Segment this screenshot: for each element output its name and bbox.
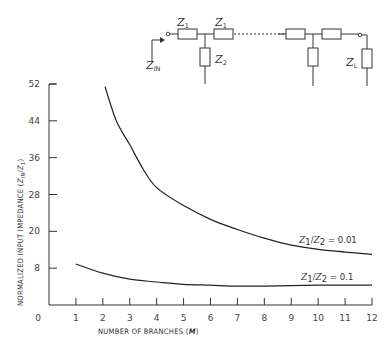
z2-resistor [200,48,210,66]
chart-axes: 0123456789101112 82028364452 NUMBER OF B… [16,79,378,336]
zl-label: ZL [345,56,358,70]
x-tick-label: 10 [312,313,324,323]
ladder-circuit-diagram: ZIN Z1 Z1 Z2 ZL [145,16,372,86]
x-tick-label: 4 [154,313,160,323]
x-tick-label: 9 [288,313,294,323]
y-tick-label: 20 [29,226,41,236]
y-axis-ticks: 82028364452 [29,79,57,273]
zin-arrow-head-icon [160,37,165,43]
annotation-series-0.1: Z1/Z2 = 0.1 [300,272,353,284]
x-tick-label: 5 [181,313,187,323]
x-tick-label: 2 [100,313,106,323]
x-tick-label: 3 [127,313,133,323]
series-line-z1-z2-0.01 [105,87,372,255]
y-tick-label: 36 [29,153,41,163]
x-axis-title: NUMBER OF BRANCHES (M) [98,327,199,336]
z2-label: Z2 [214,53,227,67]
y-tick-label: 44 [29,116,41,126]
series-layer [76,87,372,286]
z1-resistor-2 [214,29,233,39]
z1-resistor-4 [322,29,341,39]
annotation-series-0.01: Z1/Z2 = 0.01 [298,235,357,247]
input-terminal-icon [166,32,170,36]
z1-label-2: Z1 [214,16,227,30]
x-tick-label: 6 [208,313,214,323]
x-tick-label: 11 [339,313,350,323]
x-axis-ticks: 0123456789101112 [35,298,378,323]
x-tick-label: 1 [73,313,79,323]
y-tick-label: 52 [29,79,40,89]
z2-resistor-last [308,48,318,66]
figure: ZIN Z1 Z1 Z2 ZL 0123456789101112 8202836… [0,0,391,349]
x-tick-label: 0 [35,313,41,323]
z1-resistor-3 [286,29,305,39]
y-axis-title: NORMALIZED INPUT IMPEDANCE (ZIN/Z1) [16,159,26,306]
x-tick-label: 8 [261,313,267,323]
output-terminal-icon [358,33,362,37]
z1-label-1: Z1 [176,16,189,30]
z1-resistor-1 [178,29,197,39]
x-tick-label: 12 [366,313,377,323]
zl-resistor [362,49,372,68]
y-tick-label: 8 [34,263,40,273]
y-tick-label: 28 [29,190,41,200]
zin-label: ZIN [145,59,161,73]
x-tick-label: 7 [235,313,241,323]
